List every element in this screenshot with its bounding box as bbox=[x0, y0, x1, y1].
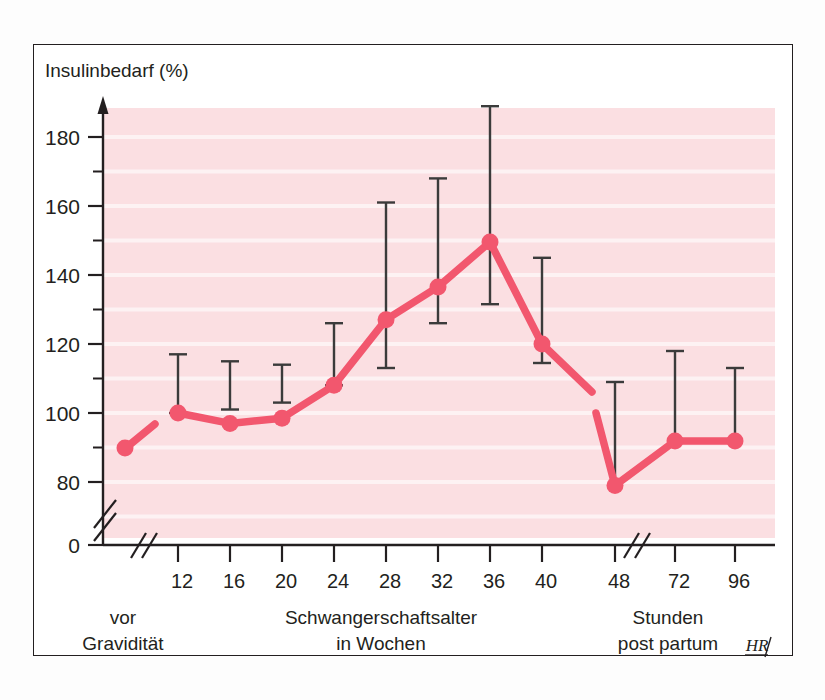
caption-right-line2: post partum bbox=[618, 633, 718, 654]
caption-center: Schwangerschaftsalter in Wochen bbox=[285, 607, 478, 654]
xtick-label-96: 96 bbox=[728, 570, 750, 592]
data-point-hour-72 bbox=[667, 433, 684, 450]
xtick-label-32: 32 bbox=[431, 570, 453, 592]
xtick-label-20: 20 bbox=[275, 570, 297, 592]
caption-right-line1: Stunden bbox=[633, 607, 704, 628]
signature-mark: HR bbox=[745, 636, 771, 657]
data-point-week-32 bbox=[430, 278, 447, 295]
caption-left-line1: vor bbox=[110, 607, 137, 628]
y-axis-title: Insulinbedarf (%) bbox=[45, 60, 189, 81]
x-ticks bbox=[178, 545, 735, 562]
data-point-week-24 bbox=[326, 377, 343, 394]
ytick-label-160: 160 bbox=[45, 195, 80, 218]
data-point-pregravidity bbox=[117, 440, 134, 457]
xtick-label-12: 12 bbox=[171, 570, 193, 592]
y-minor-ticks bbox=[93, 172, 103, 448]
signature-text: HR bbox=[745, 636, 769, 655]
caption-left: vor Gravidität bbox=[82, 607, 164, 654]
xtick-label-48: 48 bbox=[608, 570, 630, 592]
data-point-week-36 bbox=[482, 234, 499, 251]
data-point-week-40 bbox=[534, 336, 551, 353]
caption-center-line2: in Wochen bbox=[336, 633, 425, 654]
data-point-hour-48 bbox=[607, 477, 624, 494]
xtick-label-40: 40 bbox=[535, 570, 557, 592]
data-point-hour-96 bbox=[727, 433, 744, 450]
xtick-label-72: 72 bbox=[668, 570, 690, 592]
xtick-label-16: 16 bbox=[223, 570, 245, 592]
caption-left-line2: Gravidität bbox=[82, 633, 164, 654]
ytick-label-100: 100 bbox=[45, 402, 80, 425]
ytick-label-80: 80 bbox=[57, 471, 80, 494]
y-major-ticks bbox=[88, 137, 103, 545]
ytick-label-0: 0 bbox=[68, 534, 80, 557]
xtick-label-36: 36 bbox=[483, 570, 505, 592]
data-point-week-12 bbox=[170, 405, 187, 422]
ytick-label-140: 140 bbox=[45, 264, 80, 287]
caption-center-line1: Schwangerschaftsalter bbox=[285, 607, 478, 628]
xtick-label-28: 28 bbox=[379, 570, 401, 592]
figure-root: Insulinbedarf (%) bbox=[0, 0, 825, 700]
data-point-week-20 bbox=[274, 410, 291, 427]
ytick-label-180: 180 bbox=[45, 126, 80, 149]
insulin-requirement-chart: Insulinbedarf (%) bbox=[0, 0, 825, 700]
data-point-week-28 bbox=[378, 311, 395, 328]
ytick-label-120: 120 bbox=[45, 333, 80, 356]
caption-right: Stunden post partum bbox=[618, 607, 718, 654]
xtick-label-24: 24 bbox=[327, 570, 349, 592]
data-point-week-16 bbox=[222, 415, 239, 432]
